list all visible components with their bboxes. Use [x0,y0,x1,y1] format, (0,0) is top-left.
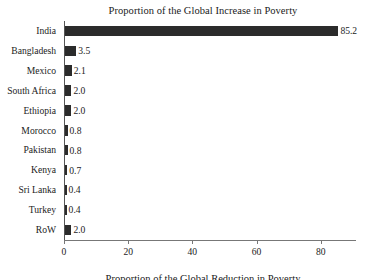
bar-value-label: 2.0 [73,224,85,235]
bar-value-label: 85.2 [340,25,357,36]
bar [65,46,76,56]
x-axis-tick-label: 0 [62,246,67,257]
x-axis-tick [257,240,258,244]
x-axis-tick [128,240,129,244]
bar [65,125,68,135]
bar-value-label: 3.5 [78,45,90,56]
bar-row: Sri Lanka0.4 [64,180,356,200]
plot-area: India85.2Bangladesh3.5Mexico2.1South Afr… [64,21,356,240]
bar-row: Morocco0.8 [64,121,356,141]
bar-value-label: 0.4 [69,184,81,195]
x-axis-tick-label: 80 [316,246,326,257]
bar [65,26,338,36]
category-label: South Africa [0,81,56,101]
x-axis-tick [321,240,322,244]
bar-row: Kenya0.7 [64,160,356,180]
bar [65,65,72,75]
bar-row: Pakistan0.8 [64,140,356,160]
bar-value-label: 0.8 [70,145,82,156]
bar-row: South Africa2.0 [64,81,356,101]
x-axis-tick-label: 60 [252,246,262,257]
bar-value-label: 0.7 [69,165,81,176]
bar [65,185,67,195]
x-axis-tick-label: 40 [188,246,198,257]
bar [65,165,67,175]
bottom-caption: Proportion of the Global Reduction in Po… [0,272,366,280]
bar-row: Mexico2.1 [64,61,356,81]
bar-row: Ethiopia2.0 [64,101,356,121]
category-label: Turkey [0,200,56,220]
x-axis-tick-label: 20 [123,246,133,257]
category-label: India [0,21,56,41]
bar-value-label: 2.0 [73,105,85,116]
category-label: Bangladesh [0,41,56,61]
bar-value-label: 0.4 [69,204,81,215]
category-label: Kenya [0,160,56,180]
bar-value-label: 2.0 [73,85,85,96]
x-axis-tick [192,240,193,244]
bar [65,145,68,155]
category-label: RoW [0,220,56,240]
bar-row: India85.2 [64,21,356,41]
x-axis-tick [64,240,65,244]
bar [65,85,71,95]
category-label: Ethiopia [0,101,56,121]
bar [65,205,67,215]
bar-value-label: 2.1 [74,65,86,76]
bar [65,225,71,235]
category-label: Sri Lanka [0,180,56,200]
bar-row: Bangladesh3.5 [64,41,356,61]
bar-row: Turkey0.4 [64,200,356,220]
bar-row: RoW2.0 [64,220,356,240]
category-label: Mexico [0,61,56,81]
x-axis-line [64,240,356,241]
bar-value-label: 0.8 [70,125,82,136]
bar-chart-figure: Proportion of the Global Increase in Pov… [0,0,366,280]
category-label: Morocco [0,121,56,141]
bar [65,105,71,115]
chart-title: Proportion of the Global Increase in Pov… [0,4,366,17]
category-label: Pakistan [0,140,56,160]
